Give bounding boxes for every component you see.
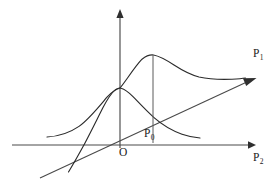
horizontal-axis-p2 — [12, 141, 256, 149]
p2-axis-label: P2 — [253, 152, 263, 164]
p0-label: P0 — [144, 128, 154, 140]
p0-label-subscript: 0 — [151, 133, 155, 142]
origin-label: O — [119, 147, 127, 159]
p1-label-subscript: 1 — [260, 53, 264, 62]
p1-label-base: P — [253, 47, 259, 59]
p2-label-subscript: 2 — [260, 157, 264, 166]
diagram-canvas — [0, 0, 280, 188]
figure-root: O P0 P1 P2 — [0, 0, 280, 188]
p1-axis-label: P1 — [253, 48, 263, 60]
p2-label-base: P — [253, 151, 259, 163]
origin-label-text: O — [119, 146, 127, 158]
vertical-axis — [116, 9, 123, 148]
narrow-curve — [69, 88, 201, 172]
p0-label-base: P — [144, 127, 150, 139]
